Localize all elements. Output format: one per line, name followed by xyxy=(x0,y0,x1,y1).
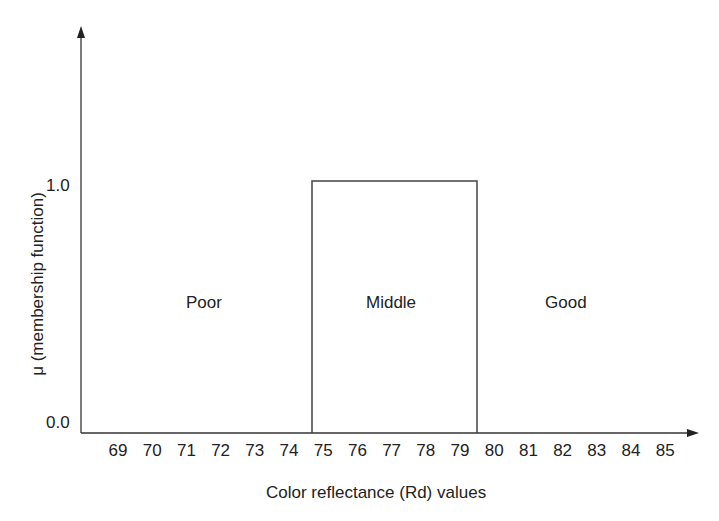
region-label-good: Good xyxy=(545,293,587,313)
x-tick: 70 xyxy=(143,441,162,461)
x-tick: 69 xyxy=(109,441,128,461)
x-tick: 81 xyxy=(519,441,538,461)
x-tick: 71 xyxy=(177,441,196,461)
region-label-middle: Middle xyxy=(366,293,416,313)
x-tick: 76 xyxy=(348,441,367,461)
x-tick: 72 xyxy=(211,441,230,461)
x-axis-label: Color reflectance (Rd) values xyxy=(266,483,486,503)
x-tick: 79 xyxy=(451,441,470,461)
region-label-poor: Poor xyxy=(186,293,222,313)
x-tick: 73 xyxy=(245,441,264,461)
x-tick: 74 xyxy=(280,441,299,461)
y-tick-0: 0.0 xyxy=(46,413,70,433)
x-tick: 75 xyxy=(314,441,333,461)
x-tick: 85 xyxy=(656,441,675,461)
x-tick: 83 xyxy=(587,441,606,461)
y-axis-label: μ (membership function) xyxy=(28,192,48,376)
x-tick: 78 xyxy=(416,441,435,461)
x-tick: 77 xyxy=(382,441,401,461)
y-tick-1: 1.0 xyxy=(46,176,70,196)
x-axis-arrow-icon xyxy=(687,429,699,437)
x-tick: 80 xyxy=(485,441,504,461)
x-tick: 84 xyxy=(622,441,641,461)
y-axis-arrow-icon xyxy=(77,26,85,38)
x-tick: 82 xyxy=(553,441,572,461)
